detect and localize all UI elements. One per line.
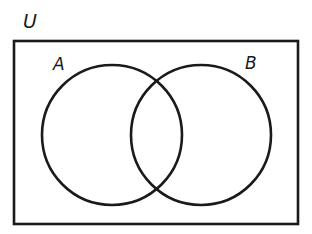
venn-diagram: U A B [0, 0, 312, 234]
set-a-label: A [53, 56, 65, 73]
set-b-label: B [245, 55, 257, 72]
venn-diagram-graphic [0, 0, 312, 234]
set-a-circle [42, 65, 182, 205]
set-b-circle [131, 65, 271, 205]
universe-label: U [23, 12, 37, 31]
